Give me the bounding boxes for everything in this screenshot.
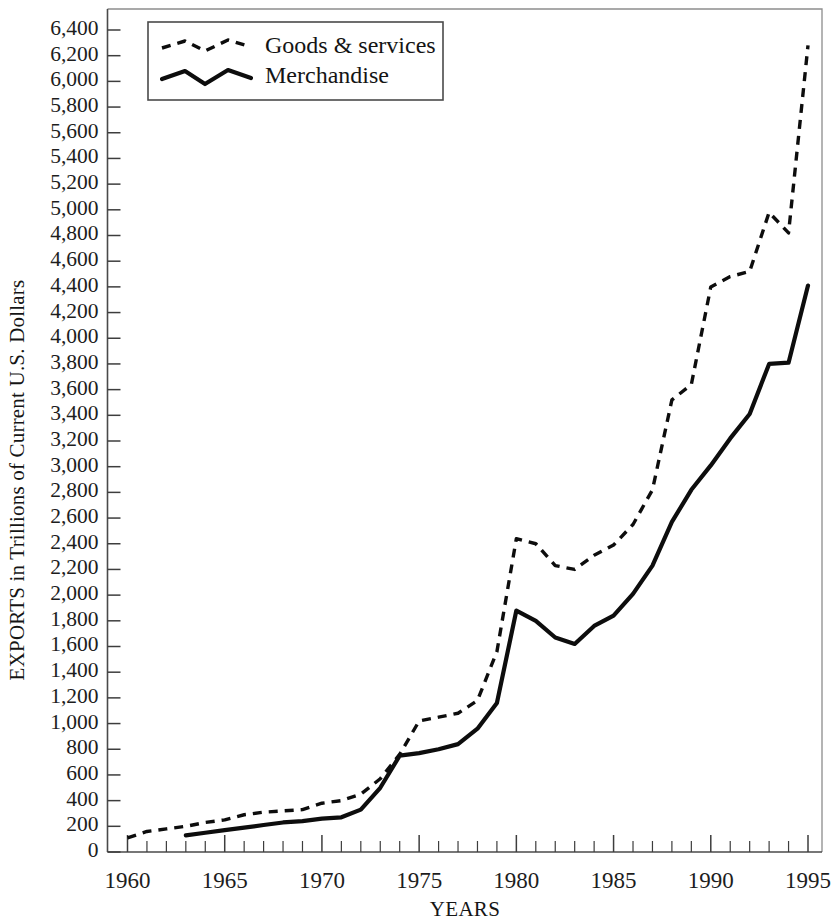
x-axis-ticks	[128, 835, 809, 852]
series-line-merchandise	[186, 286, 808, 836]
y-tick-label: 2,400	[50, 530, 98, 554]
y-tick-label: 3,400	[50, 401, 98, 425]
x-tick-label: 1980	[493, 868, 539, 893]
y-axis-tick-labels: 02004006008001,0001,2001,4001,6001,8002,…	[50, 16, 98, 862]
y-tick-label: 5,400	[50, 144, 98, 168]
y-tick-label: 200	[66, 812, 98, 836]
y-tick-label: 4,400	[50, 273, 98, 297]
x-tick-label: 1960	[105, 868, 151, 893]
y-tick-label: 5,800	[50, 93, 98, 117]
y-tick-label: 2,200	[50, 555, 98, 579]
legend-label-merchandise: Merchandise	[265, 62, 389, 88]
x-axis-tick-labels: 19601965197019751980198519901995	[105, 868, 832, 893]
y-tick-label: 2,800	[50, 478, 98, 502]
y-tick-label: 5,000	[50, 196, 98, 220]
y-tick-label: 6,200	[50, 42, 98, 66]
y-tick-label: 400	[66, 787, 98, 811]
y-tick-label: 4,000	[50, 324, 98, 348]
y-tick-label: 6,000	[50, 67, 98, 91]
y-tick-label: 5,200	[50, 170, 98, 194]
series-line-goods-and-services	[128, 45, 809, 837]
x-tick-label: 1965	[202, 868, 248, 893]
x-tick-label: 1975	[396, 868, 442, 893]
y-tick-label: 3,000	[50, 453, 98, 477]
x-tick-label: 1970	[299, 868, 345, 893]
y-tick-label: 3,800	[50, 350, 98, 374]
chart-legend: Goods & services Merchandise	[148, 22, 443, 100]
x-axis-title: YEARS	[430, 897, 500, 921]
y-tick-label: 3,600	[50, 376, 98, 400]
y-tick-label: 600	[66, 761, 98, 785]
y-tick-label: 1,600	[50, 632, 98, 656]
x-tick-label: 1990	[688, 868, 734, 893]
y-axis-title: EXPORTS in Trillions of Current U.S. Dol…	[5, 280, 29, 681]
y-tick-label: 1,400	[50, 658, 98, 682]
chart-container: 02004006008001,0001,2001,4001,6001,8002,…	[0, 0, 835, 924]
plot-frame-border	[108, 9, 823, 852]
y-tick-label: 4,200	[50, 299, 98, 323]
y-tick-label: 1,200	[50, 684, 98, 708]
y-tick-label: 3,200	[50, 427, 98, 451]
legend-label-goods-and-services: Goods & services	[265, 32, 436, 58]
y-tick-label: 2,000	[50, 581, 98, 605]
data-series-group	[128, 45, 809, 837]
y-tick-label: 4,800	[50, 221, 98, 245]
y-tick-label: 2,600	[50, 504, 98, 528]
y-tick-label: 0	[88, 838, 99, 862]
plot-frame	[108, 9, 823, 852]
y-tick-label: 1,000	[50, 710, 98, 734]
y-tick-label: 6,400	[50, 16, 98, 40]
y-tick-label: 4,600	[50, 247, 98, 271]
y-axis-ticks	[108, 30, 121, 852]
x-tick-label: 1995	[785, 868, 831, 893]
x-tick-label: 1985	[591, 868, 637, 893]
y-tick-label: 5,600	[50, 119, 98, 143]
y-tick-label: 1,800	[50, 607, 98, 631]
exports-line-chart: 02004006008001,0001,2001,4001,6001,8002,…	[0, 0, 835, 924]
y-tick-label: 800	[66, 735, 98, 759]
